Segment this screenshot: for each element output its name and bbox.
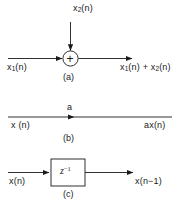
figure-canvas: x2(n) x1(n) x1(n) + x2(n) + (a) a x (n) … xyxy=(0,0,191,212)
adder-input2-label: x2(n) xyxy=(73,4,93,14)
delay-input-label: x(n) xyxy=(9,177,25,186)
delay-box-label: z−1 xyxy=(60,166,71,176)
caption-b: (b) xyxy=(63,134,74,143)
multiplier-gain-label: a xyxy=(67,103,72,112)
multiplier-output-label: ax(n) xyxy=(144,121,166,130)
caption-c: (c) xyxy=(63,190,74,199)
multiplier-input-label: x (n) xyxy=(11,121,30,130)
caption-a: (a) xyxy=(63,73,74,82)
adder-output-label: x1(n) + x2(n) xyxy=(120,63,171,73)
adder-plus-icon: + xyxy=(67,53,74,65)
signal-flow-wires xyxy=(0,0,191,212)
adder-input1-label: x1(n) xyxy=(7,63,27,73)
delay-output-label: x(n−1) xyxy=(135,177,162,186)
